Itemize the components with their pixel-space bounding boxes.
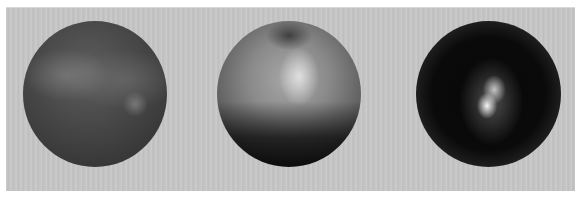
sphere-glossy-gray bbox=[217, 21, 361, 167]
sphere-black-specular bbox=[416, 21, 561, 167]
sphere-dark-matte bbox=[23, 21, 167, 167]
